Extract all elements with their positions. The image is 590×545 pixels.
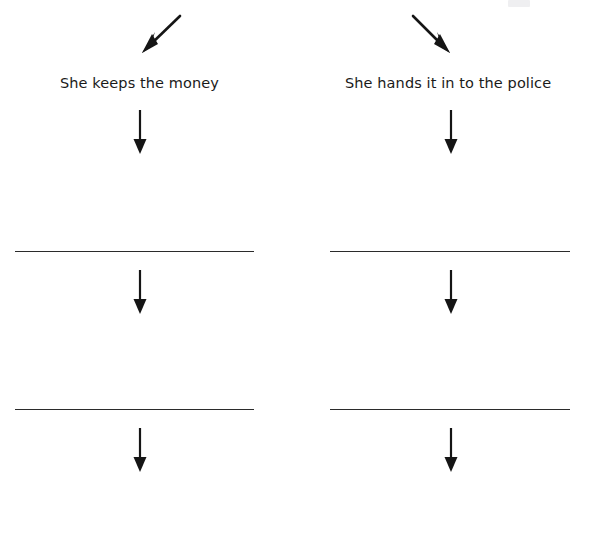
answer-line[interactable] (15, 409, 254, 410)
arrow-down-icon (442, 270, 460, 316)
diagonal-arrow-down-right-icon (405, 5, 465, 60)
branch-right-label: She hands it in to the police (345, 76, 551, 91)
worksheet-page: She keeps the money She hands it in to t… (0, 0, 590, 545)
answer-line[interactable] (330, 251, 570, 252)
arrow-down-icon (131, 110, 149, 156)
arrow-down-icon (131, 428, 149, 474)
arrow-down-icon (442, 110, 460, 156)
answer-line[interactable] (15, 251, 254, 252)
answer-line[interactable] (330, 409, 570, 410)
branch-left-label: She keeps the money (60, 76, 219, 91)
arrow-down-icon (442, 428, 460, 474)
diagonal-arrow-down-left-icon (130, 5, 190, 60)
arrow-down-icon (131, 270, 149, 316)
cut-off-text-fragment (508, 0, 530, 7)
